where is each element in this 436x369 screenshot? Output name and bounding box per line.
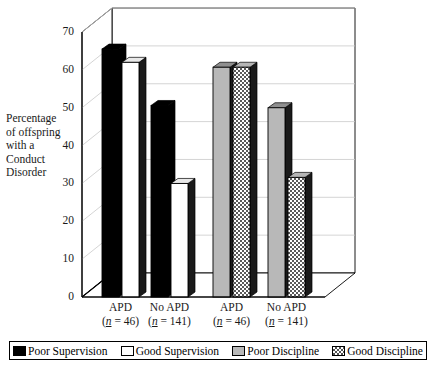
y-axis-tick-label: 0	[52, 291, 74, 303]
figure-root: Percentage of offspring with a Conduct D…	[0, 0, 436, 369]
legend-label: Poor Supervision	[28, 345, 108, 357]
x-axis-category-name: APD	[201, 300, 263, 314]
legend-swatch-icon	[332, 346, 345, 356]
x-axis-category-n: (n = 46)	[201, 314, 263, 328]
legend-label: Good Supervision	[136, 345, 219, 357]
x-axis-category-n: (n = 141)	[256, 314, 318, 328]
legend-item-good-discipline[interactable]: Good Discipline	[332, 345, 423, 357]
legend-swatch-icon	[121, 346, 134, 356]
y-axis-tick-label: 50	[52, 102, 74, 114]
y-axis-tick-label: 10	[52, 253, 74, 265]
legend-item-poor-discipline[interactable]: Poor Discipline	[232, 345, 319, 357]
chart-svg	[0, 0, 436, 330]
bar-chart-plot-area	[0, 0, 436, 330]
x-axis-category-name: No APD	[256, 300, 318, 314]
bar	[122, 57, 146, 297]
y-axis-tick-label: 60	[52, 64, 74, 76]
legend-label: Good Discipline	[347, 345, 423, 357]
legend-item-poor-supervision[interactable]: Poor Supervision	[13, 345, 108, 357]
chart-legend: Poor Supervision Good Supervision Poor D…	[9, 341, 427, 360]
x-axis-category-label: APD(n = 46)	[201, 300, 263, 328]
legend-item-good-supervision[interactable]: Good Supervision	[121, 345, 219, 357]
y-axis-tick-label: 30	[52, 177, 74, 189]
x-axis-category-name: No APD	[139, 300, 201, 314]
x-axis-category-n: (n = 141)	[139, 314, 201, 328]
y-axis-tick-label: 20	[52, 215, 74, 227]
bar	[233, 62, 257, 297]
y-axis-tick-label: 40	[52, 140, 74, 152]
legend-swatch-icon	[232, 346, 245, 356]
legend-swatch-icon	[13, 346, 26, 356]
y-axis-tick-label: 70	[52, 26, 74, 38]
legend-label: Poor Discipline	[247, 345, 319, 357]
x-axis-category-label: No APD(n = 141)	[139, 300, 201, 328]
bar	[171, 178, 195, 297]
bar	[288, 172, 312, 297]
x-axis-category-label: No APD(n = 141)	[256, 300, 318, 328]
